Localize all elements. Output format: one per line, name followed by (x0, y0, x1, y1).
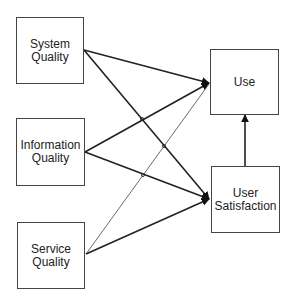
edge-system-quality-to-user-satisfaction (84, 50, 209, 199)
node-service-quality: Service Quality (17, 222, 85, 289)
node-user-satisfaction: User Satisfaction (211, 166, 280, 233)
edge-system-quality-to-use (84, 50, 209, 83)
edge-service-quality-to-use (86, 84, 209, 254)
node-label-line: Quality (31, 256, 71, 269)
node-label: User Satisfaction (214, 187, 276, 213)
edge-service-quality-to-user-satisfaction (86, 199, 209, 254)
node-label: Service Quality (31, 243, 71, 269)
node-system-quality: System Quality (16, 17, 84, 84)
node-label-line: Quality (20, 152, 80, 165)
node-label-line: Quality (30, 51, 70, 64)
node-label: Use (234, 76, 255, 89)
node-label-line: Service (31, 243, 71, 256)
edge-information-quality-to-user-satisfaction (85, 152, 209, 199)
node-label: Information Quality (20, 139, 80, 165)
node-information-quality: Information Quality (16, 118, 85, 186)
diagram-canvas: System Quality Information Quality Servi… (0, 0, 298, 304)
edge-information-quality-to-use (85, 83, 209, 152)
node-label-line: System (30, 38, 70, 51)
node-label-line: User (214, 187, 276, 200)
node-label-line: Satisfaction (214, 200, 276, 213)
node-label-line: Use (234, 76, 255, 89)
node-use: Use (210, 49, 279, 115)
node-label: System Quality (30, 38, 70, 64)
